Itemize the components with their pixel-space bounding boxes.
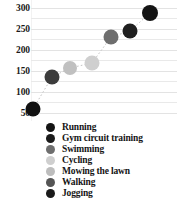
data-point-gym-circuit-training	[123, 24, 138, 39]
y-axis-tick-label: 200	[3, 45, 30, 55]
legend-swatch-icon	[46, 156, 55, 165]
gridline	[31, 102, 177, 103]
plot-area	[31, 0, 177, 121]
chart-legend: Running Gym circuit training Swimming Cy…	[0, 121, 177, 201]
legend-item-label: Cycling	[62, 155, 92, 166]
legend-item-jogging[interactable]: Jogging	[46, 188, 93, 199]
legend-swatch-icon	[46, 167, 55, 176]
gridline	[31, 50, 177, 51]
gridline	[31, 92, 177, 93]
y-axis-tick-labels: 300 250 200 150 100 50	[0, 0, 30, 121]
legend-item-label: Gym circuit training	[62, 133, 143, 144]
legend-item-swimming[interactable]: Swimming	[46, 144, 104, 155]
gridline	[31, 113, 177, 114]
legend-item-label: Running	[62, 122, 96, 133]
legend-item-gym-circuit-training[interactable]: Gym circuit training	[46, 133, 143, 144]
legend-swatch-icon	[46, 145, 55, 154]
legend-item-cycling[interactable]: Cycling	[46, 155, 92, 166]
data-point-swimming	[104, 30, 119, 45]
legend-swatch-icon	[46, 134, 55, 143]
scatter-plot: 300 250 200 150 100 50	[0, 0, 177, 121]
legend-item-label: Jogging	[62, 188, 93, 199]
legend-item-label: Walking	[62, 177, 95, 188]
y-axis-tick-label: 250	[3, 24, 30, 34]
gridline	[31, 60, 177, 61]
y-axis-tick-label: 100	[3, 87, 30, 97]
gridline	[31, 29, 177, 30]
y-axis-tick-label: 150	[3, 66, 30, 76]
legend-item-running[interactable]: Running	[46, 122, 96, 133]
legend-swatch-icon	[46, 189, 55, 198]
legend-swatch-icon	[46, 123, 55, 132]
legend-item-mowing-the-lawn[interactable]: Mowing the lawn	[46, 166, 130, 177]
data-point-cycling	[85, 56, 100, 71]
data-point-running	[142, 5, 158, 21]
legend-item-label: Mowing the lawn	[62, 166, 130, 177]
data-point-jogging	[26, 102, 41, 117]
legend-item-walking[interactable]: Walking	[46, 177, 95, 188]
y-axis-tick-label: 300	[3, 3, 30, 13]
chart-figure: 300 250 200 150 100 50	[0, 0, 177, 201]
legend-swatch-icon	[46, 178, 55, 187]
legend-item-label: Swimming	[62, 144, 104, 155]
data-point-walking	[45, 70, 60, 85]
data-point-mowing-the-lawn	[63, 61, 77, 75]
